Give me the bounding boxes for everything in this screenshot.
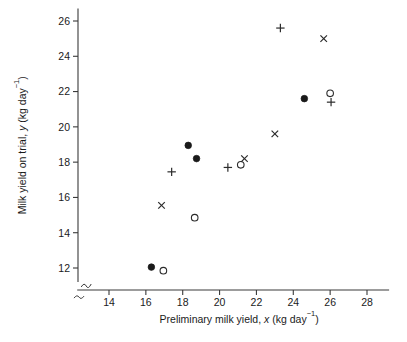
x-axis-title: Preliminary milk yield, x (kg day−1) <box>160 308 319 325</box>
marker-open-circle <box>237 161 244 168</box>
y-axis-title: Milk yield on trial, y (kg day−1) <box>11 76 28 214</box>
y-axis-break-icon <box>74 296 84 299</box>
x-tick-label: 16 <box>140 296 152 308</box>
x-tick-label: 20 <box>214 296 226 308</box>
y-axis: 1214161820222426 <box>58 8 84 298</box>
marker-open-circle <box>327 90 334 97</box>
y-tick-label: 24 <box>58 50 70 62</box>
x-axis: 1416182022242628 <box>77 284 389 308</box>
marker-cross <box>158 202 165 209</box>
x-tick-label: 14 <box>103 296 115 308</box>
y-tick-label: 18 <box>58 156 70 168</box>
marker-filled-circle <box>148 264 155 271</box>
scatter-plot-figure: 1214161820222426 1416182022242628 Prelim… <box>0 0 407 342</box>
marker-plus <box>276 24 284 32</box>
x-tick-label: 24 <box>287 296 299 308</box>
y-tick-label: 14 <box>58 227 70 239</box>
marker-filled-circle <box>193 155 200 162</box>
x-tick-label: 22 <box>251 296 263 308</box>
data-markers <box>148 24 335 274</box>
y-tick-label: 12 <box>58 262 70 274</box>
x-tick-label: 28 <box>361 296 373 308</box>
y-tick-label: 22 <box>58 85 70 97</box>
marker-plus <box>327 98 335 106</box>
marker-plus <box>167 168 175 176</box>
x-tick-label: 26 <box>324 296 336 308</box>
marker-plus <box>224 163 232 171</box>
marker-filled-circle <box>301 95 308 102</box>
marker-open-circle <box>191 214 198 221</box>
marker-filled-circle <box>185 142 192 149</box>
marker-cross <box>241 155 248 162</box>
x-axis-break-icon <box>81 284 91 288</box>
y-tick-label: 20 <box>58 121 70 133</box>
y-tick-label: 16 <box>58 191 70 203</box>
marker-cross <box>320 35 327 42</box>
x-tick-label: 18 <box>177 296 189 308</box>
marker-cross <box>272 131 279 138</box>
y-tick-label: 26 <box>58 15 70 27</box>
axis-titles: Preliminary milk yield, x (kg day−1)Milk… <box>11 76 319 325</box>
marker-open-circle <box>160 267 167 274</box>
plot-canvas: 1214161820222426 1416182022242628 Prelim… <box>0 0 407 342</box>
